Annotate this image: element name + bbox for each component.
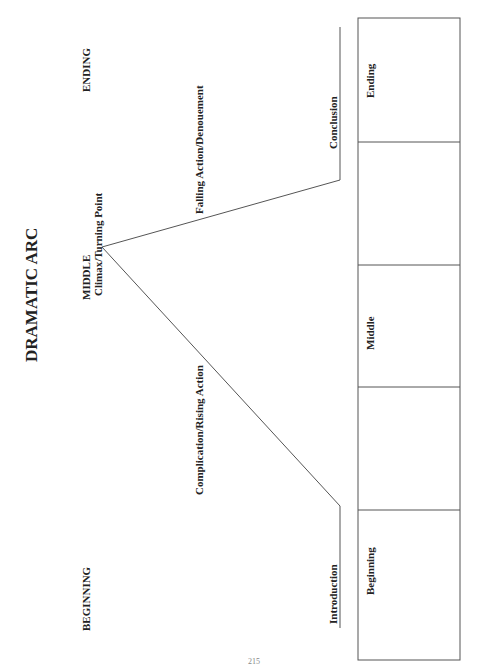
climax-label: Climax/Turning Point [92, 193, 104, 296]
section-ending: ENDING [80, 48, 92, 92]
arc-diagram [0, 0, 484, 666]
rising-action-label: Complication/Rising Action [193, 365, 205, 495]
introduction-label: Introduction [327, 564, 339, 624]
section-middle: MIDDLE [80, 255, 92, 300]
falling-action-label: Falling Action/Denouement [193, 85, 205, 214]
table-cell-beginning: Beginning [364, 547, 376, 595]
falling-action-line [102, 180, 340, 247]
conclusion-label: Conclusion [327, 96, 339, 149]
section-beginning: BEGINNING [80, 567, 92, 631]
page-number: 215 [248, 657, 260, 666]
table-cell-middle: Middle [364, 316, 376, 350]
table-cell-ending: Ending [364, 64, 376, 98]
rising-action-line [102, 247, 340, 506]
page-title: DRAMATIC ARC [22, 228, 42, 362]
